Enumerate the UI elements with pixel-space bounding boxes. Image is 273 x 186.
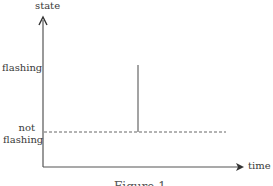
state-label-flashing: flashing	[2, 62, 42, 74]
y-axis-label: state	[35, 0, 60, 12]
diagram-canvas	[0, 0, 273, 186]
state-label-not-flashing: flashing	[3, 134, 43, 146]
figure-caption: Figure 1	[114, 180, 166, 186]
x-axis-label: time	[248, 160, 271, 172]
state-label-not: not	[19, 122, 35, 134]
